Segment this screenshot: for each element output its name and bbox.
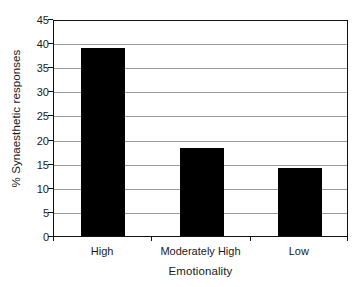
bar-chart-figure: % Synaesthetic responses 051015202530354…: [0, 0, 363, 287]
x-axis-tick-marks: [53, 237, 348, 242]
x-axis-tick-mark: [347, 237, 348, 241]
y-axis-tick-label: 25: [26, 109, 49, 123]
y-axis-tick-label: 45: [26, 13, 49, 27]
bars-group: [54, 21, 347, 236]
bar: [278, 168, 322, 236]
x-axis-tick-label: Moderately High: [151, 243, 249, 259]
y-axis-tick-label: 5: [26, 206, 49, 220]
x-axis-tick-label: High: [53, 243, 151, 259]
bar: [180, 148, 224, 236]
bar: [81, 48, 125, 236]
x-axis-tick-labels: HighModerately HighLow: [53, 243, 348, 259]
y-axis-tick-label: 35: [26, 61, 49, 75]
y-axis-title: % Synaesthetic responses: [8, 0, 24, 237]
y-axis-tick-label: 40: [26, 37, 49, 51]
x-axis-tick-label: Low: [250, 243, 348, 259]
y-axis-tick-labels: 051015202530354045: [26, 20, 49, 237]
y-axis-tick-label: 10: [26, 182, 49, 196]
x-axis-tick-mark: [151, 237, 152, 241]
plot-area: [53, 20, 348, 237]
x-axis-tick-mark: [250, 237, 251, 241]
y-axis-tick-label: 20: [26, 134, 49, 148]
y-axis-tick-label: 30: [26, 85, 49, 99]
y-axis-tick-label: 0: [26, 230, 49, 244]
x-axis-tick-mark: [53, 237, 54, 241]
y-axis-tick-label: 15: [26, 158, 49, 172]
x-axis-title: Emotionality: [53, 263, 348, 279]
